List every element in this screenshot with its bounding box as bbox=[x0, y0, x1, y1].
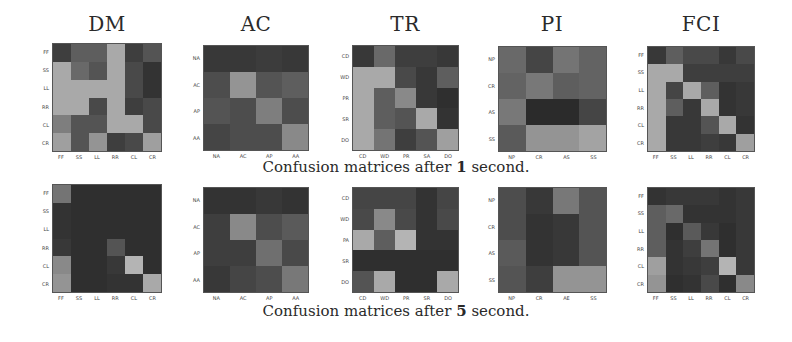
matrix-cell bbox=[437, 67, 458, 88]
matrix-cell bbox=[437, 188, 458, 209]
y-tick-label: CR bbox=[630, 140, 644, 146]
y-tick-label: DO bbox=[335, 279, 349, 285]
y-axis-labels-dm-5s: FFSSLLRRCLCR bbox=[35, 184, 49, 293]
matrix-cell bbox=[71, 115, 89, 133]
matrix-cell bbox=[499, 73, 526, 99]
confusion-matrix-pi-1s bbox=[498, 46, 607, 152]
matrix-cell bbox=[416, 271, 437, 292]
matrix-cell bbox=[53, 221, 71, 239]
matrix-cell bbox=[256, 266, 282, 292]
matrix-cell bbox=[736, 240, 754, 257]
title-fci: FCI bbox=[641, 12, 761, 36]
y-tick-label: AC bbox=[186, 82, 200, 88]
matrix-cell bbox=[89, 185, 107, 203]
matrix-cell bbox=[374, 230, 395, 251]
confusion-matrix-ac-1s bbox=[203, 45, 309, 151]
matrix-cell bbox=[648, 205, 666, 222]
matrix-cell bbox=[256, 188, 282, 214]
matrix-cell bbox=[701, 64, 719, 81]
matrix-cell bbox=[353, 271, 374, 292]
matrix-cell bbox=[143, 98, 161, 116]
matrix-cell bbox=[736, 188, 754, 205]
matrix-cell bbox=[736, 223, 754, 240]
matrix-cell bbox=[282, 266, 308, 292]
y-tick-label: DO bbox=[335, 137, 349, 143]
matrix-cell bbox=[107, 274, 125, 292]
matrix-cell bbox=[701, 134, 719, 151]
y-axis-labels-tr-1s: CDWDPRSRDO bbox=[335, 45, 349, 151]
y-tick-label: SS bbox=[35, 67, 49, 73]
y-tick-label: CR bbox=[35, 281, 49, 287]
matrix-cell bbox=[683, 205, 701, 222]
matrix-cell bbox=[125, 98, 143, 116]
caption-5-second: Confusion matrices after 5 second. bbox=[0, 302, 792, 320]
matrix-cell bbox=[719, 47, 737, 64]
matrix-cell bbox=[53, 239, 71, 257]
matrix-cell bbox=[499, 47, 526, 73]
matrix-cell bbox=[648, 64, 666, 81]
matrix-cell bbox=[89, 274, 107, 292]
matrix-cell bbox=[256, 72, 282, 98]
matrix-cell bbox=[719, 99, 737, 116]
matrix-cell bbox=[579, 214, 606, 240]
matrix-cell bbox=[374, 209, 395, 230]
y-tick-label: FF bbox=[35, 190, 49, 196]
caption-1-second: Confusion matrices after 1 second. bbox=[0, 158, 792, 176]
matrix-cell bbox=[107, 203, 125, 221]
y-tick-label: CD bbox=[335, 53, 349, 59]
matrix-cell bbox=[579, 188, 606, 214]
matrix-cell bbox=[526, 240, 553, 266]
matrix-cell bbox=[204, 188, 230, 214]
matrix-cell bbox=[416, 230, 437, 251]
y-tick-label: AC bbox=[186, 224, 200, 230]
matrix-cell bbox=[143, 239, 161, 257]
caption-number: 5 bbox=[456, 302, 466, 320]
matrix-cell bbox=[579, 99, 606, 125]
matrix-cell bbox=[71, 203, 89, 221]
matrix-cell bbox=[437, 230, 458, 251]
matrix-cell bbox=[230, 46, 256, 72]
matrix-cell bbox=[553, 240, 580, 266]
matrix-cell bbox=[416, 250, 437, 271]
matrix-cell bbox=[143, 185, 161, 203]
matrix-cell bbox=[701, 99, 719, 116]
y-tick-label: WD bbox=[335, 216, 349, 222]
y-tick-label: CR bbox=[630, 281, 644, 287]
matrix-cell bbox=[701, 116, 719, 133]
matrix-cell bbox=[395, 250, 416, 271]
y-tick-label: NP bbox=[481, 56, 495, 62]
y-tick-label: SR bbox=[335, 116, 349, 122]
matrix-cell bbox=[53, 256, 71, 274]
matrix-cell bbox=[282, 124, 308, 150]
matrix-cell bbox=[648, 275, 666, 292]
matrix-cell bbox=[89, 115, 107, 133]
y-tick-label: LL bbox=[35, 226, 49, 232]
matrix-cell bbox=[416, 188, 437, 209]
matrix-cell bbox=[526, 47, 553, 73]
matrix-cell bbox=[683, 82, 701, 99]
y-tick-label: AS bbox=[481, 109, 495, 115]
matrix-cell bbox=[683, 223, 701, 240]
matrix-cell bbox=[526, 214, 553, 240]
matrix-cell bbox=[125, 115, 143, 133]
matrix-cell bbox=[374, 88, 395, 109]
matrix-cell bbox=[204, 72, 230, 98]
matrix-cell bbox=[282, 46, 308, 72]
y-axis-labels-pi-1s: NPCRASSS bbox=[481, 46, 495, 152]
matrix-cell bbox=[683, 47, 701, 64]
matrix-cell bbox=[499, 188, 526, 214]
matrix-cell bbox=[256, 240, 282, 266]
matrix-cell bbox=[89, 239, 107, 257]
matrix-cell bbox=[701, 47, 719, 64]
matrix-cell bbox=[125, 274, 143, 292]
matrix-cell bbox=[143, 133, 161, 151]
matrix-cell bbox=[143, 44, 161, 62]
matrix-cell bbox=[701, 188, 719, 205]
matrix-cell bbox=[579, 125, 606, 151]
matrix-cell bbox=[89, 203, 107, 221]
matrix-cell bbox=[499, 214, 526, 240]
matrix-cell bbox=[230, 266, 256, 292]
matrix-cell bbox=[53, 133, 71, 151]
matrix-cell bbox=[666, 205, 684, 222]
title-pi: PI bbox=[492, 12, 612, 36]
